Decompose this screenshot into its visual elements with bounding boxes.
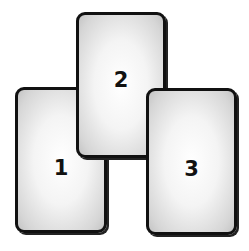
card-position-3: 3 bbox=[146, 88, 237, 235]
card-number: 3 bbox=[184, 157, 199, 181]
card-number: 2 bbox=[114, 68, 129, 92]
card-number: 1 bbox=[54, 156, 69, 180]
